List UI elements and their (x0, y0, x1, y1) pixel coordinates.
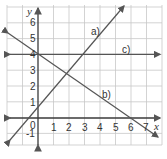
y-tick-4: 4 (30, 49, 36, 60)
y-tick-2: 2 (30, 81, 36, 92)
x-tick-3: 3 (82, 122, 88, 133)
x-tick-4: 4 (97, 122, 103, 133)
x-tick-6: 6 (128, 122, 134, 133)
line-b-label: b) (102, 89, 111, 100)
line-c-label: c) (122, 44, 130, 55)
line-a-label: a) (91, 26, 100, 37)
y-tick-6: 6 (30, 17, 36, 28)
line-a (10, 6, 124, 140)
y-tick-1: 1 (30, 97, 36, 108)
y-tick-neg1: -1 (26, 128, 35, 139)
x-tick-1: 1 (51, 122, 57, 133)
x-tick-7: 7 (143, 122, 149, 133)
coordinate-plane: y x 0 1 2 3 4 5 6 7 -1 1 2 3 4 5 6 a) b)… (0, 0, 167, 159)
y-tick-5: 5 (30, 33, 36, 44)
x-tick-5: 5 (113, 122, 119, 133)
y-axis-label: y (26, 5, 32, 17)
x-axis-label: x (153, 120, 159, 132)
y-tick-3: 3 (30, 65, 36, 76)
x-tick-2: 2 (66, 122, 72, 133)
